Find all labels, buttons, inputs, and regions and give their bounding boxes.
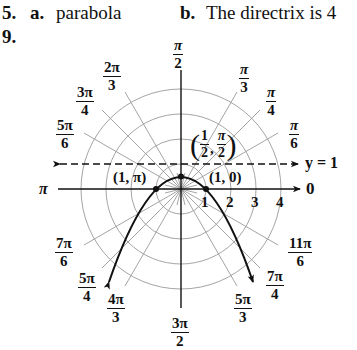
point-label-1-pi: (1, π): [113, 170, 146, 185]
angle-label-pi-over-6: π6: [289, 118, 299, 151]
point-1-pi: [153, 186, 159, 192]
vertex-theta-fraction: π2: [217, 129, 227, 160]
angle-label-5pi-over-3: 5π3: [234, 292, 252, 325]
angle-label-7pi-over-6: 7π6: [55, 236, 73, 269]
radius-tick-3: 3: [251, 195, 259, 210]
point-1-0: [203, 186, 209, 192]
angle-label-pi-over-4: π4: [266, 85, 276, 118]
angle-label-5pi-over-4: 5π4: [78, 271, 96, 304]
radius-tick-1: 1: [201, 195, 209, 210]
directrix-label: y = 1: [305, 155, 338, 171]
angle-label-4pi-over-3: 4π3: [107, 292, 125, 325]
angle-label-2pi-over-3: 2π3: [103, 60, 121, 93]
angle-label-5pi-over-6: 5π6: [56, 118, 74, 151]
point-label-1-0: (1, 0): [209, 170, 242, 185]
axis-label-zero: 0: [306, 180, 315, 197]
vertex-point: [178, 174, 184, 180]
angle-label-3pi-over-2: 3π2: [171, 316, 189, 349]
vertex-r-fraction: 12: [200, 129, 209, 160]
axis-label-pi: π: [39, 181, 48, 197]
angle-label-pi-over-2: π2: [173, 38, 183, 71]
angle-label-pi-over-3: π3: [239, 62, 249, 95]
vertex-label: ( 12 , π2 ): [190, 129, 236, 160]
angle-label-11pi-over-6: 11π6: [288, 236, 312, 269]
angle-label-7pi-over-4: 7π4: [266, 269, 284, 302]
radius-tick-2: 2: [226, 195, 234, 210]
radius-tick-4: 4: [276, 195, 284, 210]
angle-label-3pi-over-4: 3π4: [76, 85, 94, 118]
